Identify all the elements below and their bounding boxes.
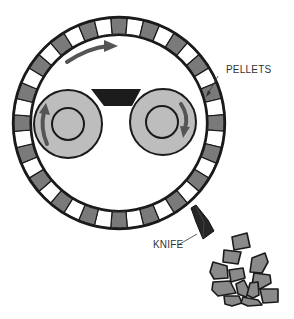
pellet	[212, 281, 236, 296]
knife	[191, 205, 214, 239]
die-hole-segment	[206, 98, 224, 116]
left-roller	[34, 90, 102, 158]
die-hole-segment	[14, 115, 30, 131]
pellet	[250, 253, 268, 273]
right-roller-hub	[146, 106, 178, 138]
die-hole-segment	[126, 210, 144, 228]
die-hole-segment	[111, 212, 127, 228]
pellet	[260, 289, 278, 303]
die-hole-segment	[94, 18, 112, 36]
pellet-mill-diagram: PELLETS KNIFE	[0, 0, 294, 319]
die-hole-segment	[111, 18, 127, 34]
pellet	[224, 296, 242, 306]
knife-label: KNIFE	[153, 239, 184, 250]
die-hole-segment	[14, 130, 32, 148]
pellets-label: PELLETS	[226, 64, 271, 75]
knife-callout: KNIFE	[153, 234, 197, 250]
pellet	[210, 262, 228, 279]
die-hole-segment	[208, 115, 224, 131]
left-roller-hub	[52, 108, 84, 140]
pellet	[241, 297, 262, 306]
pellet	[223, 250, 241, 264]
pellet	[232, 233, 250, 250]
cut-pellets-pile	[210, 233, 278, 306]
right-roller	[130, 89, 196, 155]
pellet	[247, 282, 259, 298]
